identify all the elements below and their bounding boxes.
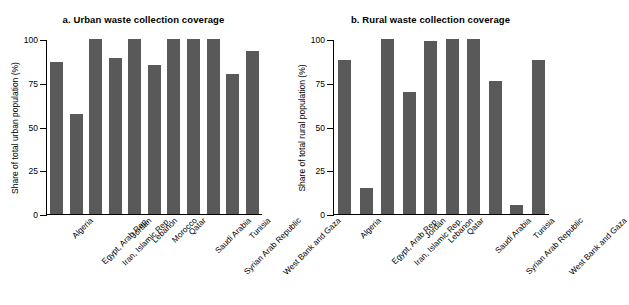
x-axis-tick-label: Saudi Arabia [214, 216, 253, 255]
panel-b-y-axis-title: Share of total rural population (%) [295, 40, 309, 215]
y-axis-tick-label: 50 [316, 123, 325, 133]
y-axis-tick [40, 40, 47, 41]
panel-a-title: a. Urban waste collection coverage [0, 14, 287, 25]
chart-panel-b: b. Rural waste collection coverage Share… [287, 0, 574, 305]
bar [403, 92, 416, 215]
y-axis-tick [327, 171, 334, 172]
panel-a-y-axis-title: Share of total urban population (%) [8, 40, 22, 215]
y-axis-tick-label: 0 [320, 210, 325, 220]
bar [207, 39, 220, 214]
y-axis-tick-label: 0 [33, 210, 38, 220]
chart-panel-a: a. Urban waste collection coverage Share… [0, 0, 287, 305]
bar [381, 39, 394, 214]
bar [50, 62, 63, 214]
bar [246, 51, 259, 214]
y-axis-tick [40, 171, 47, 172]
y-axis-tick-label: 100 [311, 35, 325, 45]
bar [532, 60, 545, 214]
bar [467, 39, 480, 214]
bar [226, 74, 239, 214]
bar [89, 39, 102, 214]
bar [446, 39, 459, 214]
panel-b-bar-group [334, 40, 549, 214]
panel-b-x-axis-labels: AlgeriaEgypt, Arab Rep.Iran, Islamic Rep… [333, 216, 549, 302]
panel-a-x-axis-labels: AlgeriaEgypt, Arab Rep.Iran, Islamic Rep… [46, 216, 262, 302]
y-axis-tick [327, 128, 334, 129]
y-axis-tick [40, 84, 47, 85]
y-axis-tick-label: 50 [29, 123, 38, 133]
bar [70, 114, 83, 214]
panel-b-plot-area: 0255075100 [333, 40, 549, 215]
y-axis-tick [40, 128, 47, 129]
bar [510, 205, 523, 214]
x-axis-tick-label: Algeria [70, 216, 94, 240]
bar [360, 188, 373, 214]
bar [424, 41, 437, 214]
bar [148, 65, 161, 214]
panel-b-title: b. Rural waste collection coverage [287, 14, 574, 25]
y-axis-tick-label: 25 [316, 166, 325, 176]
y-axis-tick-label: 25 [29, 166, 38, 176]
panel-a-plot-area: 0255075100 [46, 40, 262, 215]
y-axis-tick [327, 84, 334, 85]
x-axis-tick-label: Saudi Arabia [494, 216, 533, 255]
panel-a-bar-group [47, 40, 262, 214]
bar [489, 81, 502, 214]
bar [187, 39, 200, 214]
y-axis-tick-label: 100 [24, 35, 38, 45]
bar [167, 39, 180, 214]
bar [109, 58, 122, 214]
y-axis-tick-label: 75 [29, 79, 38, 89]
bar [128, 39, 141, 214]
y-axis-tick-label: 75 [316, 79, 325, 89]
x-axis-tick-label: Tunisia [531, 216, 556, 241]
x-axis-tick-label: Algeria [358, 216, 382, 240]
y-axis-tick [327, 40, 334, 41]
bar [338, 60, 351, 214]
